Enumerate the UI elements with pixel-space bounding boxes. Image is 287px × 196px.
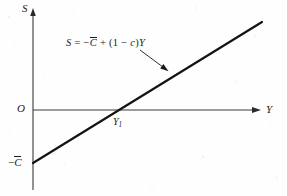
leader-arrowhead [160, 64, 168, 71]
cbar-symbol: C [14, 157, 21, 168]
eq-lhs: S [66, 37, 71, 48]
saving-function-graph: S Y O Y1 −C S=−C+(1−c)Y [0, 0, 287, 196]
eq-cbar: C [90, 38, 97, 49]
leader-line [140, 50, 165, 68]
origin-label: O [17, 103, 25, 114]
eq-one: 1 [113, 37, 118, 48]
eq-plus: + [100, 37, 106, 48]
y1-intercept-label: Y1 [113, 117, 122, 129]
y-axis-label: S [22, 3, 28, 14]
eq-equals: = [74, 37, 80, 48]
scan-noise [8, 7, 278, 187]
negative-cbar-label: −C [8, 157, 22, 168]
y1-subscript: 1 [119, 121, 123, 129]
equation-label: S=−C+(1−c)Y [66, 38, 145, 49]
eq-income: Y [139, 37, 145, 48]
graph-canvas [0, 0, 287, 196]
y-axis-arrowhead [30, 8, 36, 16]
x-axis-arrowhead [252, 107, 261, 113]
x-axis-label: Y [266, 104, 272, 115]
eq-minus: − [121, 37, 127, 48]
